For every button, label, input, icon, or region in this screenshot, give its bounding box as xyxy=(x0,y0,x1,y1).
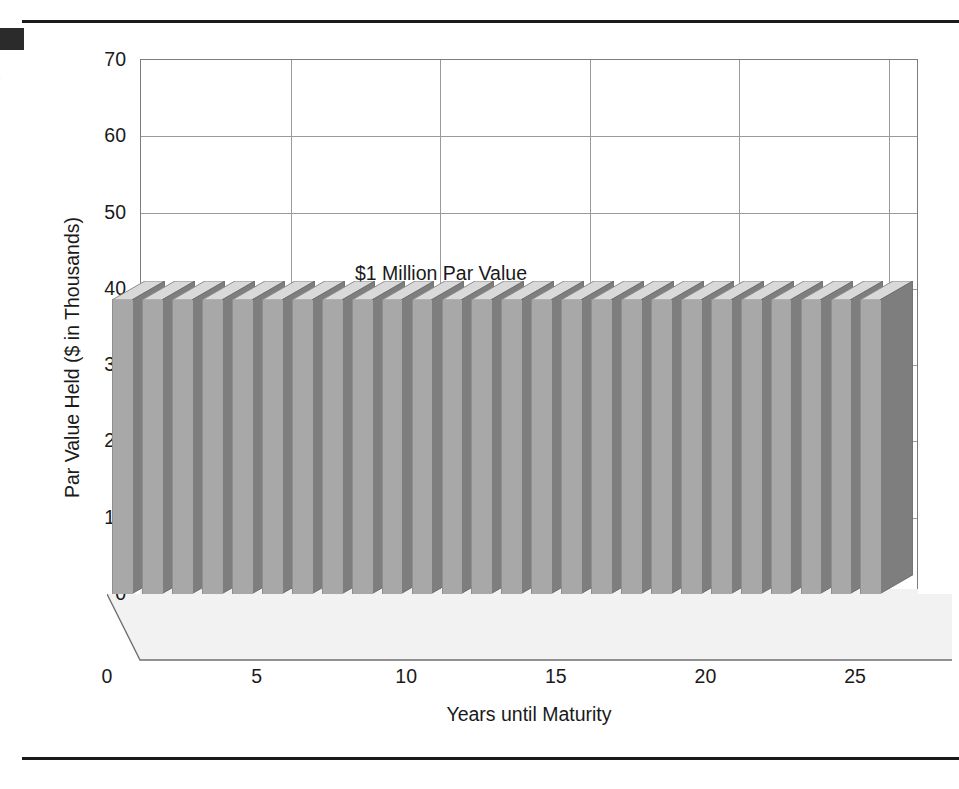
bar-front-face xyxy=(292,300,313,594)
bar-front-face xyxy=(232,300,253,594)
floor-3d xyxy=(107,592,952,662)
y-axis-title: Par Value Held ($ in Thousands) xyxy=(61,118,84,598)
x-tick-label: 20 xyxy=(677,666,733,686)
chart-figure: ) $1 Million Par Value 010203040506070 0… xyxy=(0,0,959,789)
x-tick-label: 25 xyxy=(827,666,883,686)
bar-front-face xyxy=(771,300,792,594)
bar-front-face xyxy=(831,300,852,594)
bar-front-face xyxy=(382,300,403,594)
bar-front-face xyxy=(442,300,463,594)
bar-front-face xyxy=(471,300,492,594)
bar-front-face xyxy=(591,300,612,594)
bar-front-face xyxy=(621,300,642,594)
bar-front-face xyxy=(860,300,881,594)
bar[interactable] xyxy=(860,281,913,593)
x-tick-label: 5 xyxy=(229,666,285,686)
x-tick-label: 15 xyxy=(528,666,584,686)
bar-front-face xyxy=(142,300,163,594)
gridline-horizontal xyxy=(141,213,917,214)
page-corner-mark xyxy=(0,28,24,50)
y-tick-label: 70 xyxy=(72,49,126,69)
bar-front-face xyxy=(561,300,582,594)
bar-front-face xyxy=(531,300,552,594)
bar-front-face xyxy=(322,300,343,594)
bar-front-face xyxy=(681,300,702,594)
bar-front-face xyxy=(412,300,433,594)
bar-front-face xyxy=(801,300,822,594)
bar-front-face xyxy=(202,300,223,594)
page-rule-bottom xyxy=(22,757,959,760)
bar-front-face xyxy=(741,300,762,594)
gridline-horizontal xyxy=(141,136,917,137)
bar-front-face xyxy=(352,300,373,594)
x-tick-label: 0 xyxy=(79,666,135,686)
x-tick-label: 10 xyxy=(378,666,434,686)
bar-front-face xyxy=(112,300,133,594)
bar-side-face xyxy=(880,281,913,594)
page-rule-top xyxy=(22,20,959,23)
chart-annotation: $1 Million Par Value xyxy=(355,262,527,285)
bar-front-face xyxy=(172,300,193,594)
bar-front-face xyxy=(651,300,672,594)
page-edge-glyph: ) xyxy=(0,68,1,88)
x-axis-title: Years until Maturity xyxy=(140,703,918,726)
bar-front-face xyxy=(711,300,732,594)
bar-front-face xyxy=(501,300,522,594)
bar-front-face xyxy=(262,300,283,594)
